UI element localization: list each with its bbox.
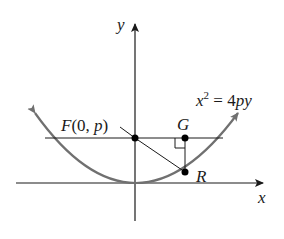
parabola-diagram: y x F(0, p) G R x2 = 4py bbox=[0, 0, 284, 239]
focus-to-r-segment bbox=[135, 138, 185, 172]
point-r bbox=[182, 169, 189, 176]
point-focus bbox=[132, 135, 139, 142]
y-axis-label: y bbox=[115, 15, 125, 34]
point-g-label: G bbox=[177, 115, 189, 134]
focus-label: F(0, p) bbox=[60, 116, 108, 135]
point-g bbox=[182, 135, 189, 142]
point-r-label: R bbox=[195, 167, 207, 186]
x-axis-label: x bbox=[257, 188, 266, 207]
equation-label: x2 = 4py bbox=[195, 89, 252, 110]
